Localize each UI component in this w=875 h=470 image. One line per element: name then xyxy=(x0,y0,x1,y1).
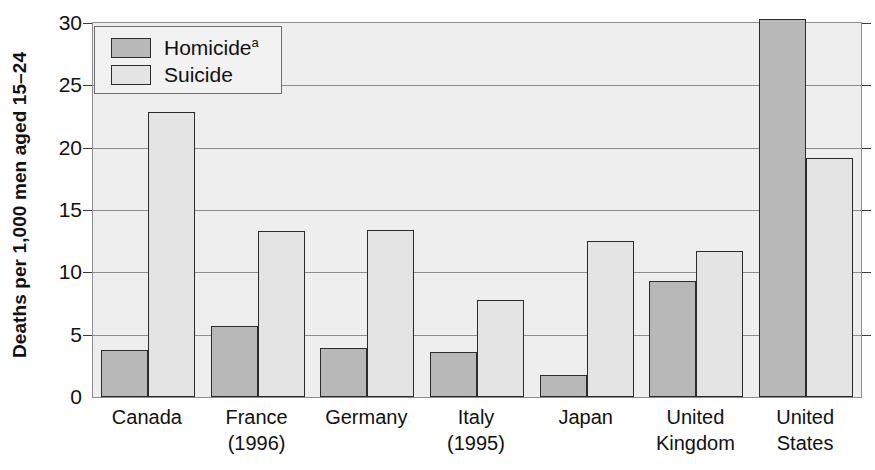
bar-homicide-united-states xyxy=(759,19,806,397)
legend-item-suicide: Suicide xyxy=(111,61,281,88)
legend-label-homicide: Homicidea xyxy=(164,36,259,60)
y-axis-tick-mark xyxy=(83,23,92,24)
bar-suicide-germany xyxy=(367,230,414,397)
plot-area: Homicidea Suicide xyxy=(92,22,862,398)
y-axis-tick-label: 20 xyxy=(59,136,82,160)
legend-swatch-suicide xyxy=(111,65,151,85)
y-axis-tick-mark xyxy=(83,210,92,211)
bar-homicide-italy--1995 xyxy=(430,352,477,397)
bar-homicide-france--1996 xyxy=(211,326,258,397)
y-axis-title-text: Deaths per 1,000 men aged 15–24 xyxy=(9,52,31,358)
y-axis-tick-label: 30 xyxy=(59,11,82,35)
y-axis-tick-mark xyxy=(862,210,871,211)
y-axis-tick-mark xyxy=(862,23,871,24)
x-axis-label-line: France xyxy=(202,404,312,430)
bar-homicide-canada xyxy=(101,350,148,397)
x-axis-label: Canada xyxy=(92,404,202,430)
y-axis-tick-mark xyxy=(83,335,92,336)
y-axis-tick-label: 15 xyxy=(59,198,82,222)
y-axis-tick-labels: 051015202530 xyxy=(44,0,88,470)
legend-footnote-marker: a xyxy=(252,35,259,50)
x-axis-label-line: Canada xyxy=(92,404,202,430)
y-axis-tick-mark xyxy=(862,148,871,149)
bar-homicide-japan xyxy=(540,375,587,397)
y-axis-tick-mark xyxy=(83,272,92,273)
bar-homicide-germany xyxy=(320,348,367,397)
x-axis-label-line: Germany xyxy=(311,404,421,430)
x-axis-category-labels: CanadaFrance(1996)GermanyItaly(1995)Japa… xyxy=(92,404,862,468)
y-axis-tick-mark xyxy=(862,272,871,273)
x-axis-label-line: Japan xyxy=(531,404,641,430)
x-axis-label: France(1996) xyxy=(202,404,312,457)
x-axis-label-line: (1995) xyxy=(421,430,531,456)
x-axis-label-line: United xyxy=(750,404,860,430)
x-axis-label-line: United xyxy=(641,404,751,430)
x-axis-label-line: (1996) xyxy=(202,430,312,456)
x-axis-label: Japan xyxy=(531,404,641,430)
legend-label-suicide: Suicide xyxy=(164,63,233,87)
y-axis-tick-mark xyxy=(83,85,92,86)
chart-legend: Homicidea Suicide xyxy=(94,26,282,94)
x-axis-label-line: Kingdom xyxy=(641,430,751,456)
x-axis-label: UnitedKingdom xyxy=(641,404,751,457)
x-axis-label: Italy(1995) xyxy=(421,404,531,457)
y-axis-tick-label: 5 xyxy=(70,323,82,347)
legend-item-homicide: Homicidea xyxy=(111,34,281,61)
x-axis-label-line: States xyxy=(750,430,860,456)
x-axis-label-line: Italy xyxy=(421,404,531,430)
bar-suicide-japan xyxy=(587,241,634,397)
y-axis-tick-label: 25 xyxy=(59,73,82,97)
bar-suicide-france--1996 xyxy=(258,231,305,397)
y-axis-tick-mark xyxy=(83,148,92,149)
bar-suicide-italy--1995 xyxy=(477,300,524,397)
y-axis-tick-mark xyxy=(862,335,871,336)
bar-suicide-united-states xyxy=(806,158,853,397)
x-axis-label: UnitedStates xyxy=(750,404,860,457)
y-axis-title: Deaths per 1,000 men aged 15–24 xyxy=(0,0,40,410)
x-axis-label: Germany xyxy=(311,404,421,430)
bar-homicide-united-kingdom xyxy=(649,281,696,397)
bar-suicide-united-kingdom xyxy=(696,251,743,397)
bar-suicide-canada xyxy=(148,112,195,397)
chart-figure: Deaths per 1,000 men aged 15–24 05101520… xyxy=(0,0,875,470)
y-axis-tick-label: 10 xyxy=(59,260,82,284)
y-axis-tick-label: 0 xyxy=(70,385,82,409)
y-axis-tick-mark xyxy=(862,85,871,86)
legend-swatch-homicide xyxy=(111,38,151,58)
